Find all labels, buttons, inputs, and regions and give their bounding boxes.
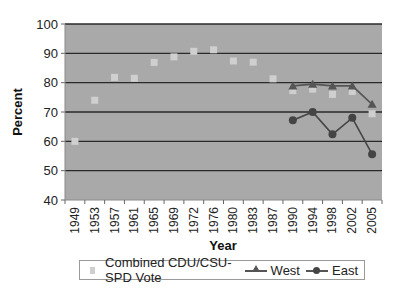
x-tick-label: 1987 — [266, 207, 280, 234]
plot-area: 4050607080901001949195319571961196519691… — [36, 17, 382, 234]
legend-label: Combined CDU/CSU-SPD Vote — [105, 255, 238, 285]
y-tick-label: 90 — [44, 46, 58, 61]
legend: Combined CDU/CSU-SPD Vote West East — [79, 260, 365, 280]
x-tick-label: 1980 — [226, 207, 240, 234]
x-tick-label: 1953 — [88, 207, 102, 234]
x-tick-label: 1976 — [207, 207, 221, 234]
y-tick-label: 40 — [44, 193, 58, 208]
square-marker — [71, 138, 78, 145]
x-tick-label: 1957 — [108, 207, 122, 234]
square-marker — [329, 91, 336, 98]
y-tick-label: 50 — [44, 163, 58, 178]
square-marker — [190, 48, 197, 55]
circle-line-icon — [306, 265, 328, 275]
x-axis-title: Year — [209, 238, 236, 253]
square-marker — [369, 110, 376, 117]
x-tick-label: 1972 — [187, 207, 201, 234]
square-marker-icon — [90, 267, 95, 274]
x-tick-label: 1961 — [127, 207, 141, 234]
legend-item-west: West — [245, 263, 300, 278]
x-tick-label: 1990 — [286, 207, 300, 234]
circle-marker — [289, 116, 297, 124]
y-tick-label: 70 — [44, 105, 58, 120]
y-tick-label: 80 — [44, 75, 58, 90]
square-marker — [131, 75, 138, 82]
circle-marker — [309, 108, 317, 116]
legend-item-east: East — [306, 263, 358, 278]
triangle-line-icon — [245, 265, 267, 275]
circle-marker — [328, 130, 336, 138]
x-tick-label: 1969 — [167, 207, 181, 234]
square-marker — [250, 59, 257, 66]
legend-label: West — [271, 263, 300, 278]
square-marker — [270, 75, 277, 82]
circle-marker — [348, 114, 356, 122]
x-tick-label: 1949 — [68, 207, 82, 234]
y-tick-label: 60 — [44, 134, 58, 149]
x-tick-label: 1994 — [306, 207, 320, 234]
x-tick-label: 1998 — [325, 207, 339, 234]
legend-label: East — [332, 263, 358, 278]
x-tick-label: 1965 — [147, 207, 161, 234]
square-marker — [151, 59, 158, 66]
legend-item-combined: Combined CDU/CSU-SPD Vote — [90, 255, 239, 285]
square-marker — [230, 57, 237, 64]
circle-marker — [368, 150, 376, 158]
y-tick-label: 100 — [36, 17, 58, 32]
x-tick-label: 2005 — [365, 207, 379, 234]
x-tick-label: 2002 — [345, 207, 359, 234]
y-axis-title: Percent — [10, 87, 25, 135]
square-marker — [91, 97, 98, 104]
square-marker — [210, 46, 217, 53]
square-marker — [111, 74, 118, 81]
x-tick-label: 1983 — [246, 207, 260, 234]
square-marker — [170, 53, 177, 60]
